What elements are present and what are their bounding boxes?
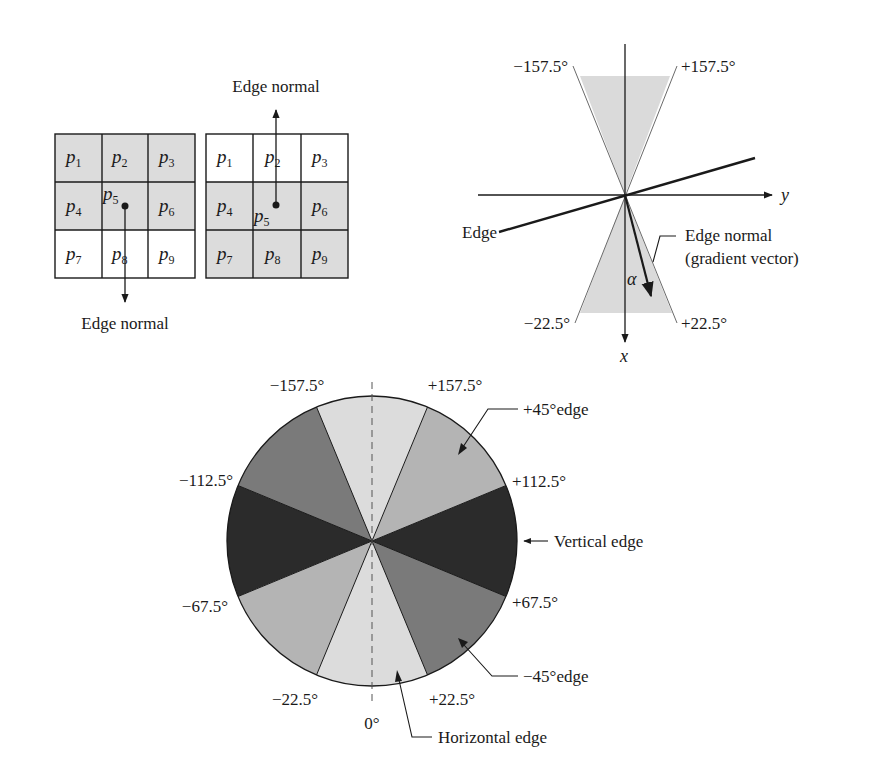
edge-normal-label-right: Edge normal <box>232 77 320 96</box>
circle-label-plus-22: +22.5° <box>429 690 475 709</box>
edge-direction-sector-circle: −157.5° +157.5° −112.5° +112.5° −67.5° +… <box>179 376 643 747</box>
pixel-grid-right: p1 p2 p3 p4 p5 p6 p7 p8 p9 Edge normal <box>206 77 348 278</box>
minus45-edge-leader <box>464 645 518 676</box>
x-axis-label: x <box>619 346 628 366</box>
horizontal-edge-leader <box>399 680 432 737</box>
angle-label-minus-157: −157.5° <box>513 57 568 76</box>
angle-label-plus-22: +22.5° <box>681 314 727 333</box>
figure-canvas: p1 p2 p3 p4 p5 p6 p7 p8 p9 Edge normal p… <box>0 0 888 774</box>
edge-label: Edge <box>462 223 497 242</box>
pixel-grid-left: p1 p2 p3 p4 p5 p6 p7 p8 p9 Edge normal <box>55 134 195 333</box>
circle-label-plus-112: +112.5° <box>512 472 566 491</box>
circle-label-minus-67: −67.5° <box>182 597 228 616</box>
gradient-axes-diagram: −157.5° +157.5° −22.5° +22.5° y x Edge E… <box>462 44 799 366</box>
circle-label-minus-112: −112.5° <box>179 471 233 490</box>
circle-label-plus-67: +67.5° <box>512 593 558 612</box>
circle-label-minus-157: −157.5° <box>270 376 325 395</box>
plus45-edge-label: +45°edge <box>523 400 588 419</box>
edge-normal-label-left: Edge normal <box>81 314 169 333</box>
minus45-edge-label: −45°edge <box>523 667 588 686</box>
circle-label-plus-157: +157.5° <box>428 376 483 395</box>
angle-label-minus-22: −22.5° <box>524 314 570 333</box>
edge-normal-leader <box>653 236 676 262</box>
angle-label-plus-157: +157.5° <box>681 57 736 76</box>
circle-label-minus-22: −22.5° <box>272 690 318 709</box>
y-axis-label: y <box>779 185 789 205</box>
alpha-angle-label: α <box>627 269 637 289</box>
vertical-edge-label: Vertical edge <box>554 532 643 551</box>
lower-wedge <box>580 195 672 313</box>
horizontal-edge-label: Horizontal edge <box>438 728 547 747</box>
edge-normal-label: Edge normal <box>685 226 773 245</box>
gradient-vector-label: (gradient vector) <box>685 249 799 268</box>
circle-label-zero: 0° <box>364 714 379 733</box>
